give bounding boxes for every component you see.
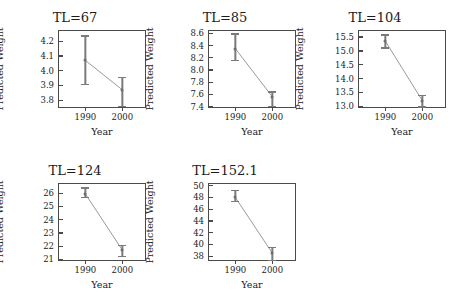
y-axis-label: Predicted Weight — [0, 167, 5, 277]
chart-panel: TL=85Predicted WeightYear7.47.67.88.08.2… — [150, 0, 300, 153]
y-tick-label: 3.9 — [40, 79, 54, 91]
y-tick-label: 8.2 — [190, 52, 204, 64]
x-tick-label: 1990 — [65, 265, 105, 275]
y-tick-label: 8.0 — [190, 64, 204, 76]
y-tick-label: 14.0 — [335, 73, 354, 85]
y-tick-label: 42 — [193, 227, 204, 239]
y-axis-label-wrap: Predicted Weight — [324, 30, 325, 108]
y-axis-label: Predicted Weight — [0, 14, 5, 124]
panel-grid: TL=67Predicted WeightYear3.83.94.04.14.2… — [0, 0, 467, 307]
y-tick-label: 46 — [193, 203, 204, 215]
error-bar-cap-lower — [81, 197, 89, 198]
error-bar-cap-upper — [381, 34, 389, 35]
trend-line — [359, 31, 447, 109]
plot-frame: 3.83.94.04.14.219902000 — [58, 30, 146, 108]
trend-line — [59, 184, 147, 262]
panel-title: TL=85 — [150, 10, 300, 25]
error-bar-cap-lower — [268, 260, 276, 261]
y-tick-label: 23 — [43, 227, 54, 239]
panel-title: TL=152.1 — [150, 163, 300, 178]
error-bar-cap-upper — [268, 247, 276, 248]
error-bar — [272, 91, 273, 106]
data-point — [121, 249, 124, 252]
y-tick-label: 4.1 — [40, 50, 54, 62]
data-point — [421, 99, 424, 102]
y-axis-label-wrap: Predicted Weight — [24, 183, 25, 261]
y-tick-label: 7.6 — [190, 88, 204, 100]
y-tick-label: 4.2 — [40, 35, 54, 47]
error-bar-cap-lower — [231, 201, 239, 202]
y-tick-label: 48 — [193, 191, 204, 203]
data-point — [234, 196, 237, 199]
error-bar-cap-upper — [118, 245, 126, 246]
y-tick-label: 44 — [193, 215, 204, 227]
chart-panel: TL=152.1Predicted WeightYear384042444648… — [150, 153, 300, 306]
error-bar-cap-upper — [418, 95, 426, 96]
error-bar-cap-lower — [118, 106, 126, 107]
panel-title: TL=104 — [300, 10, 450, 25]
y-tick-label: 13.5 — [335, 86, 354, 98]
error-bar-cap-lower — [118, 256, 126, 257]
trend-line — [209, 184, 297, 262]
error-bar-cap-upper — [268, 91, 276, 92]
plot-frame: 13.013.514.014.515.015.519902000 — [358, 30, 446, 108]
error-bar-cap-lower — [418, 106, 426, 107]
error-bar-cap-upper — [118, 77, 126, 78]
x-tick-label: 1990 — [365, 112, 405, 122]
data-point — [84, 192, 87, 195]
x-tick-label: 1990 — [65, 112, 105, 122]
error-bar-cap-lower — [268, 106, 276, 107]
y-tick-label: 7.4 — [190, 101, 204, 113]
y-axis-label: Predicted Weight — [144, 167, 155, 277]
chart-panel: TL=104Predicted WeightYear13.013.514.014… — [300, 0, 450, 153]
y-tick-label: 22 — [43, 240, 54, 252]
data-point — [84, 59, 87, 62]
x-axis-label: Year — [58, 126, 146, 137]
panel-title: TL=67 — [0, 10, 150, 25]
chart-panel: TL=67Predicted WeightYear3.83.94.04.14.2… — [0, 0, 150, 153]
x-tick-label: 2000 — [102, 112, 142, 122]
plot-frame: 21222324252619902000 — [58, 183, 146, 261]
y-tick-label: 4.0 — [40, 65, 54, 77]
error-bar-cap-upper — [231, 33, 239, 34]
x-axis-label: Year — [208, 126, 296, 137]
trend-line — [209, 31, 297, 109]
y-tick-label: 50 — [193, 180, 204, 192]
error-bar-cap-lower — [231, 60, 239, 61]
x-tick-label: 1990 — [215, 112, 255, 122]
chart-panel: TL=124Predicted WeightYear21222324252619… — [0, 153, 150, 306]
x-tick-label: 2000 — [252, 265, 292, 275]
data-point — [271, 252, 274, 255]
plot-frame: 3840424446485019902000 — [208, 183, 296, 261]
y-tick-label: 25 — [43, 200, 54, 212]
y-tick-label: 24 — [43, 214, 54, 226]
error-bar-cap-lower — [81, 84, 89, 85]
y-tick-label: 8.6 — [190, 27, 204, 39]
trend-line — [59, 31, 147, 109]
panel-title: TL=124 — [0, 163, 150, 178]
y-tick-label: 7.8 — [190, 76, 204, 88]
x-tick-label: 2000 — [402, 112, 442, 122]
error-bar-cap-upper — [81, 187, 89, 188]
y-tick-label: 13.0 — [335, 100, 354, 112]
x-tick-label: 2000 — [252, 112, 292, 122]
error-bar-cap-upper — [231, 190, 239, 191]
x-axis-label: Year — [208, 279, 296, 290]
y-tick-label: 26 — [43, 187, 54, 199]
y-tick-label: 15.0 — [335, 45, 354, 57]
y-tick-label: 15.5 — [335, 31, 354, 43]
y-axis-label: Predicted Weight — [144, 14, 155, 124]
error-bar-cap-upper — [81, 35, 89, 36]
error-bar-cap-lower — [381, 47, 389, 48]
y-tick-label: 40 — [193, 238, 204, 250]
y-tick-label: 21 — [43, 253, 54, 265]
x-tick-label: 2000 — [102, 265, 142, 275]
y-axis-label-wrap: Predicted Weight — [174, 30, 175, 108]
y-tick-label: 8.4 — [190, 40, 204, 52]
x-axis-label: Year — [358, 126, 446, 137]
x-axis-label: Year — [58, 279, 146, 290]
y-tick-label: 3.8 — [40, 94, 54, 106]
data-point — [384, 40, 387, 43]
y-tick-label: 38 — [193, 250, 204, 262]
y-tick-label: 14.5 — [335, 59, 354, 71]
